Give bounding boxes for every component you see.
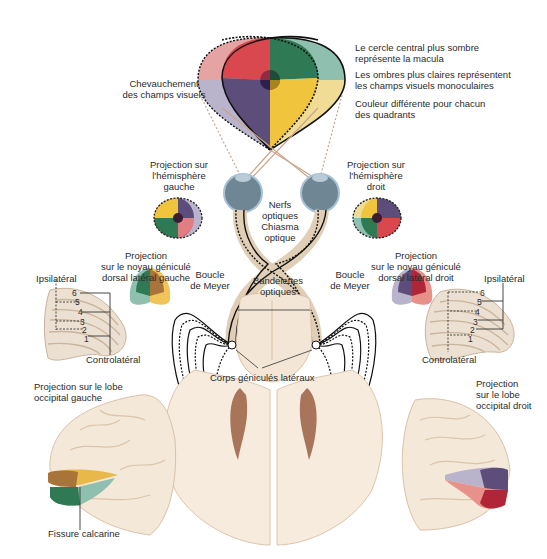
label-proj-left-hemisphere: Projection sur l'hémisphère gauche — [148, 159, 210, 192]
line1: Projection sur — [148, 159, 210, 170]
projection-right-hemisphere — [353, 198, 401, 238]
label-occipital-left: Projection sur le lobe occipital gauche — [34, 381, 123, 403]
midbrain — [236, 293, 312, 383]
label-contralateral-left: Controlatéral — [86, 354, 140, 365]
label-lateral-geniculate-bodies: Corps géniculés latéraux — [210, 372, 315, 383]
line1: Projection — [100, 250, 192, 261]
line1: Nerfs — [258, 199, 302, 210]
label-chiasm: Chiasma optique — [258, 221, 302, 243]
label-overlap-line1: Chevauchement — [118, 78, 210, 89]
lgn-right-layer-1: 1 — [468, 334, 473, 345]
legend-monocular: Les ombres plus claires représentent les… — [355, 69, 511, 91]
lgn-nucleus-left — [44, 280, 126, 360]
legend-quadrants: Couleur différente pour chacun des quadr… — [355, 98, 485, 120]
lgb-left — [228, 341, 236, 349]
occipital-lobe-right — [402, 399, 510, 530]
lgb-right — [312, 341, 320, 349]
line3: dorsal latéral gauche — [100, 272, 192, 283]
line3: occipital droit — [476, 400, 531, 411]
hemispheres — [165, 370, 383, 545]
legend-macula-line1: Le cercle central plus sombre — [355, 42, 479, 53]
line1: Projection sur — [345, 159, 407, 170]
line2: l'hémisphère — [148, 170, 210, 181]
line2: optiques — [258, 210, 302, 221]
label-lgn-left: Projection sur le noyau géniculé dorsal … — [100, 250, 192, 283]
legend-macula: Le cercle central plus sombre représente… — [355, 42, 479, 64]
label-ipsilateral-left: Ipsilatéral — [36, 273, 77, 284]
label-overlap: Chevauchement des champs visuels — [118, 78, 210, 100]
line2: de Meyer — [188, 280, 232, 291]
line2: l'hémisphère — [345, 170, 407, 181]
label-proj-right-hemisphere: Projection sur l'hémisphère droit — [345, 159, 407, 192]
label-optic-tracts: Bandelettes optiques — [248, 275, 308, 297]
occipital-lobe-left — [48, 395, 176, 535]
label-calcarine-fissure: Fissure calcarine — [48, 528, 120, 539]
label-meyer-loop-left: Boucle de Meyer — [188, 269, 232, 291]
line2: sur le noyau géniculé — [370, 261, 462, 272]
legend-macula-line2: représente la macula — [355, 53, 479, 64]
label-ipsilateral-right: Ipsilatéral — [484, 273, 525, 284]
lgn-nucleus-right — [425, 283, 514, 360]
line1: Bandelettes — [248, 275, 308, 286]
line1: Projection — [370, 250, 462, 261]
line3: droit — [345, 181, 407, 192]
projection-left-hemisphere — [154, 198, 202, 238]
visual-field-overlap — [198, 37, 345, 150]
legend-quadrants-line2: des quadrants — [355, 109, 485, 120]
line2: occipital gauche — [34, 392, 123, 403]
line2: optiques — [248, 286, 308, 297]
line2: sur le lobe — [476, 389, 531, 400]
line2: optique — [258, 232, 302, 243]
legend-quadrants-line1: Couleur différente pour chacun — [355, 98, 485, 109]
label-optic-nerves: Nerfs optiques — [258, 199, 302, 221]
label-overlap-line2: des champs visuels — [118, 89, 210, 100]
line2: de Meyer — [328, 280, 372, 291]
line1: Boucle — [328, 269, 372, 280]
lgn-left-layer-1: 1 — [84, 334, 89, 345]
legend-monocular-line2: les champs visuels monoculaires — [355, 80, 511, 91]
line1: Projection sur le lobe — [34, 381, 123, 392]
label-contralateral-right: Controlatéral — [422, 354, 476, 365]
line3: dorsal latéral droit — [370, 272, 462, 283]
line3: gauche — [148, 181, 210, 192]
line1: Projection — [476, 378, 531, 389]
label-occipital-right: Projection sur le lobe occipital droit — [476, 378, 531, 411]
legend-monocular-line1: Les ombres plus claires représentent — [355, 69, 511, 80]
line1: Boucle — [188, 269, 232, 280]
line1: Chiasma — [258, 221, 302, 232]
line2: sur le noyau géniculé — [100, 261, 192, 272]
label-meyer-loop-right: Boucle de Meyer — [328, 269, 372, 291]
label-lgn-right: Projection sur le noyau géniculé dorsal … — [370, 250, 462, 283]
